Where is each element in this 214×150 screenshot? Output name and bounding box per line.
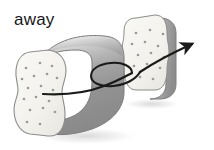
speckle-dot (46, 73, 49, 76)
speckle-dot (135, 32, 138, 35)
speckle-dot (25, 67, 28, 70)
speckle-dot (133, 65, 136, 68)
speckle-dot (51, 65, 54, 68)
right-block-shadow (122, 98, 182, 110)
speckle-dot (146, 63, 149, 66)
right-block-face (122, 15, 169, 90)
speckle-dot (35, 96, 38, 99)
speckle-dot (149, 29, 152, 32)
speckle-dot (159, 67, 162, 70)
speckle-dot (40, 85, 43, 88)
speckle-dot (157, 45, 160, 48)
speckle-dot (56, 77, 59, 80)
right-block (122, 15, 176, 99)
speckle-dot (137, 54, 140, 57)
speckle-dot (23, 98, 26, 101)
speckle-dot (39, 123, 42, 126)
speckle-dot (39, 62, 42, 65)
speckle-dot (33, 75, 36, 78)
speckle-dot (139, 76, 142, 79)
speckle-dot (131, 43, 134, 46)
speckle-dot (144, 41, 147, 44)
speckle-dot (162, 33, 165, 36)
speckle-dot (26, 121, 29, 124)
speckle-dot (42, 107, 45, 110)
speckle-dot (48, 100, 51, 103)
away-label: away (14, 10, 55, 30)
speckle-dot (150, 52, 153, 55)
speckle-dot (52, 89, 55, 92)
speckle-dot (54, 111, 57, 114)
speckle-dot (152, 78, 155, 81)
speckle-dot (29, 109, 32, 112)
figure-container: away (0, 0, 214, 150)
speckle-dot (21, 78, 24, 81)
speckle-dot (27, 87, 30, 90)
